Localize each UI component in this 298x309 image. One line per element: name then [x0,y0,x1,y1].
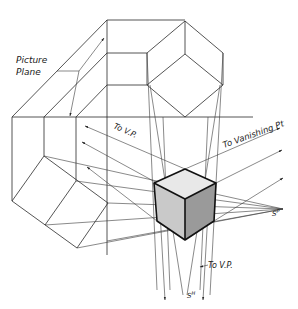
to-vp-left-line-2 [82,142,157,183]
plan-edge-right [185,54,223,85]
perspective-drawing: Picture Plane [0,0,298,309]
ray-1 [147,53,157,290]
picture-plane-callout: Picture Plane [16,38,104,116]
leader-arrow-down [70,71,79,116]
ray-3 [210,53,223,295]
picture-plane-label-2: Plane [16,67,41,77]
leader-arrow-up [79,38,104,71]
plan-view-cube [147,21,223,117]
miter-line-3 [76,85,107,117]
miter-line-2 [44,53,107,117]
to-vp-left-line-3 [87,167,157,221]
station-point-plan-label: SP [272,208,279,218]
to-vp-left-label: To V.P. [112,122,138,140]
plan-edge-left [147,54,185,85]
station-point-elev-label: SH [187,290,195,300]
picture-plane-label-1: Picture [16,55,48,65]
side-mid-edge [45,181,76,225]
to-vp-right-line-2 [216,150,282,183]
perspective-cube [154,169,216,240]
side-view-cube [12,156,108,248]
to-vanishing-pt-label: To Vanishing Pt [221,118,286,150]
to-vp-bottom-label: To V.P. [208,261,233,270]
side-outline [12,156,108,248]
